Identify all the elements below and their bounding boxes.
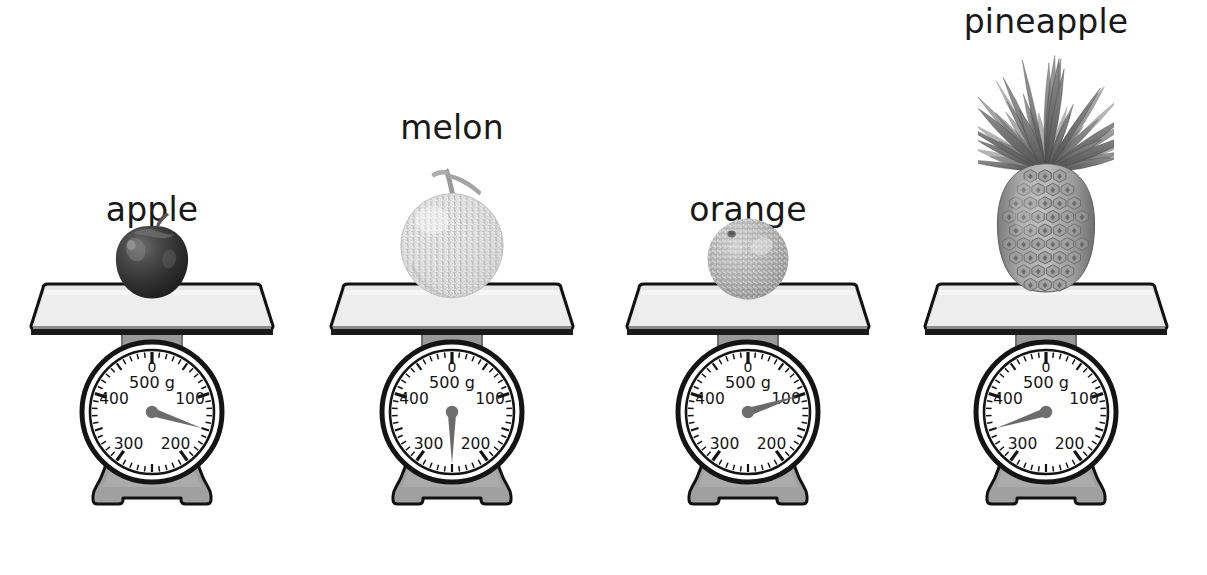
dial-tick-label: 200 — [461, 435, 491, 453]
dial-tick-label: 300 — [414, 435, 444, 453]
dial-unit-label: 500 g — [429, 373, 475, 392]
dial-tick-label: 400 — [99, 390, 129, 408]
fruit-orange — [705, 216, 791, 302]
dial-tick-label: 400 — [399, 390, 429, 408]
dial-tick-label: 300 — [114, 435, 144, 453]
orange-scale: orange1002003004000500 g — [598, 0, 898, 575]
dial-tick-label: 200 — [1055, 435, 1085, 453]
dial-tick-label: 200 — [757, 435, 787, 453]
fruit-label: pineapple — [896, 2, 1196, 41]
fruit-label: melon — [302, 108, 602, 147]
fruit-scales-illustration: apple1002003004000500 gmelon100200300400… — [0, 0, 1207, 575]
dial-tick-label: 400 — [695, 390, 725, 408]
scale-dial: 1002003004000500 g — [78, 338, 226, 486]
dial-needle-hub — [742, 406, 754, 418]
apple-scale: apple1002003004000500 g — [2, 0, 302, 575]
dial-tick-label: 200 — [161, 435, 191, 453]
dial-tick-label: 100 — [175, 390, 205, 408]
dial-needle-hub — [1040, 406, 1052, 418]
dial-tick-label: 300 — [1008, 435, 1038, 453]
scale-dial: 1002003004000500 g — [378, 338, 526, 486]
scale-dial: 1002003004000500 g — [674, 338, 822, 486]
scale-dial: 1002003004000500 g — [972, 338, 1120, 486]
fruit-apple — [109, 209, 195, 302]
dial-tick-label: 100 — [475, 390, 505, 408]
dial-unit-label: 500 g — [725, 373, 771, 392]
dial-tick-label: 100 — [1069, 390, 1099, 408]
melon-scale: melon1002003004000500 g — [302, 0, 602, 575]
dial-needle-hub — [146, 406, 158, 418]
fruit-pineapple — [978, 47, 1114, 300]
fruit-melon — [393, 155, 511, 303]
dial-tick-label: 300 — [710, 435, 740, 453]
dial-needle-hub — [446, 406, 458, 418]
dial-tick-label: 400 — [993, 390, 1023, 408]
pineapple-scale: pineapple1002003004000500 g — [896, 0, 1196, 575]
dial-unit-label: 500 g — [1023, 373, 1069, 392]
dial-unit-label: 500 g — [129, 373, 175, 392]
